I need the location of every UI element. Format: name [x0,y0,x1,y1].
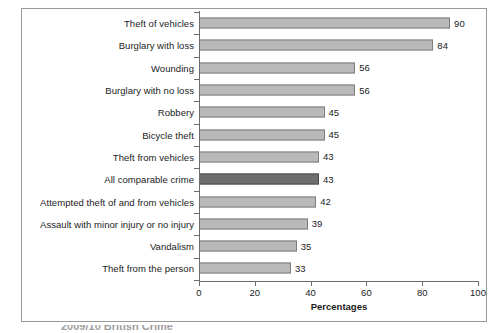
y-axis-tick [194,57,199,58]
chart-row: Theft from vehicles43 [0,146,499,168]
y-axis-tick [194,12,199,13]
bar-value-label: 39 [312,218,323,229]
x-axis-tick-label: 100 [470,287,486,298]
bar-highlighted [199,174,319,185]
bar [199,263,291,274]
bar [199,85,355,96]
bar-track: 39 [199,218,478,229]
chart-rows: Theft of vehicles90Burglary with loss84W… [0,12,499,280]
bar-value-label: 84 [437,40,448,51]
x-axis-tick [199,281,200,286]
category-label: Robbery [158,107,194,118]
y-axis-tick [194,280,199,281]
chart-row: Assault with minor injury or no injury39 [0,213,499,235]
category-label: Burglary with no loss [105,85,194,96]
y-axis-tick [194,34,199,35]
category-label: Attempted theft of and from vehicles [40,196,194,207]
bar-value-label: 35 [301,241,312,252]
category-label: Wounding [151,62,194,73]
y-axis-tick [194,191,199,192]
x-axis-tick-label: 80 [417,287,428,298]
bar-value-label: 42 [320,196,331,207]
horizontal-bar-chart: Theft of vehicles90Burglary with loss84W… [0,0,499,333]
bar-value-label: 45 [329,107,340,118]
bar-value-label: 43 [323,174,334,185]
bar-track: 43 [199,174,478,185]
x-axis-tick-label: 60 [361,287,372,298]
bar [199,40,433,51]
bar-track: 90 [199,18,478,29]
chart-row: Wounding56 [0,57,499,79]
bar-track: 56 [199,62,478,73]
x-axis-tick [311,281,312,286]
bar [199,196,316,207]
y-axis-tick [194,258,199,259]
x-axis-line [199,281,479,282]
clipped-caption: 2009/10 British Crime [21,325,487,333]
chart-row: All comparable crime43 [0,168,499,190]
bar-track: 35 [199,241,478,252]
x-axis-tick-label: 20 [250,287,261,298]
bar [199,241,297,252]
bar-value-label: 43 [323,151,334,162]
bar-track: 84 [199,40,478,51]
x-axis-tick [255,281,256,286]
clipped-caption-text: 2009/10 British Crime [61,325,173,332]
chart-row: Burglary with loss84 [0,34,499,56]
category-label: Theft from the person [102,263,194,274]
bar-track: 45 [199,129,478,140]
x-axis-tick [422,281,423,286]
bar-track: 56 [199,85,478,96]
bar-track: 45 [199,107,478,118]
bar [199,107,325,118]
chart-row: Theft of vehicles90 [0,12,499,34]
chart-row: Robbery45 [0,101,499,123]
category-label: Theft from vehicles [113,151,194,162]
x-axis-tick [478,281,479,286]
chart-row: Bicycle theft45 [0,123,499,145]
x-axis-title: Percentages [199,301,479,312]
x-axis-tick-label: 0 [196,287,201,298]
category-label: All comparable crime [104,174,194,185]
chart-row: Theft from the person33 [0,257,499,279]
y-axis-tick [194,235,199,236]
bar-value-label: 56 [359,85,370,96]
category-label: Assault with minor injury or no injury [40,218,194,229]
bar-track: 42 [199,196,478,207]
category-label: Theft of vehicles [124,18,194,29]
bar [199,18,450,29]
category-label: Burglary with loss [119,40,194,51]
bar [199,62,355,73]
category-label: Vandalism [150,241,194,252]
y-axis-tick [194,101,199,102]
chart-row: Attempted theft of and from vehicles42 [0,190,499,212]
bar-track: 33 [199,263,478,274]
y-axis-line [199,11,200,281]
bar-value-label: 45 [329,129,340,140]
y-axis-tick [194,213,199,214]
y-axis-tick [194,124,199,125]
bar-value-label: 33 [295,263,306,274]
bar [199,218,308,229]
category-label: Bicycle theft [142,129,194,140]
x-axis-tick-label: 40 [305,287,316,298]
bar [199,129,325,140]
x-axis-tick [366,281,367,286]
y-axis-tick [194,168,199,169]
bar-track: 43 [199,151,478,162]
y-axis-tick [194,79,199,80]
chart-row: Burglary with no loss56 [0,79,499,101]
bar-value-label: 56 [359,62,370,73]
chart-row: Vandalism35 [0,235,499,257]
y-axis-tick [194,146,199,147]
bar-value-label: 90 [454,18,465,29]
chart-screenshot: Theft of vehicles90Burglary with loss84W… [0,0,499,333]
bar [199,151,319,162]
